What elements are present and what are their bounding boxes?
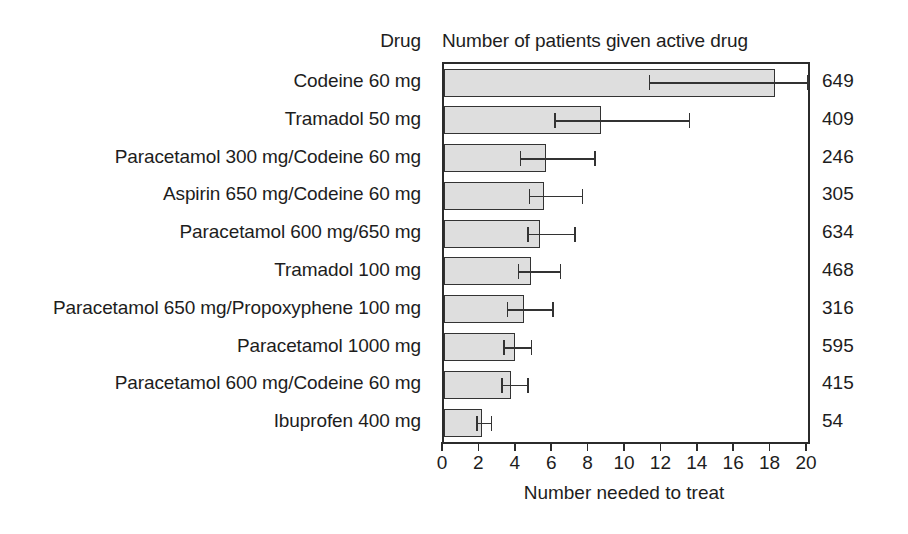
drug-label: Aspirin 650 mg/Codeine 60 mg bbox=[0, 175, 430, 213]
patients-column-header: Number of patients given active drug bbox=[442, 30, 748, 52]
error-bar-cap-low bbox=[554, 113, 556, 128]
x-axis-tick bbox=[587, 442, 589, 451]
patient-count: 595 bbox=[822, 327, 902, 365]
error-bar-cap-high bbox=[594, 151, 596, 166]
bar-row bbox=[444, 64, 808, 102]
drug-label: Paracetamol 300 mg/Codeine 60 mg bbox=[0, 138, 430, 176]
patient-count: 305 bbox=[822, 175, 902, 213]
drug-label: Tramadol 50 mg bbox=[0, 100, 430, 138]
drug-label: Paracetamol 600 mg/Codeine 60 mg bbox=[0, 364, 430, 402]
bar-row bbox=[444, 215, 808, 253]
error-bar-line bbox=[508, 309, 554, 311]
error-bar-line bbox=[650, 82, 808, 84]
error-bar-line bbox=[502, 385, 527, 387]
error-bar-cap-high bbox=[582, 189, 584, 204]
error-bar-cap-high bbox=[552, 302, 554, 317]
x-axis-tick-label: 10 bbox=[613, 452, 634, 474]
x-axis-tick bbox=[805, 442, 807, 451]
x-axis-tick bbox=[732, 442, 734, 451]
error-bar-cap-high bbox=[807, 75, 809, 90]
patient-count: 316 bbox=[822, 289, 902, 327]
error-bar-line bbox=[477, 423, 492, 425]
error-bar-cap-low bbox=[501, 378, 503, 393]
x-axis-tick bbox=[550, 442, 552, 451]
x-axis-tick bbox=[660, 442, 662, 451]
error-bar-cap-low bbox=[529, 189, 531, 204]
error-bar-cap-high bbox=[491, 416, 493, 431]
drug-label: Codeine 60 mg bbox=[0, 62, 430, 100]
bar-row bbox=[444, 329, 808, 367]
patient-count: 409 bbox=[822, 100, 902, 138]
patient-count-column: 64940924630563446831659541554 bbox=[822, 62, 902, 440]
x-axis-title: Number needed to treat bbox=[442, 482, 806, 504]
x-axis-tick-label: 12 bbox=[650, 452, 671, 474]
x-axis-tick-label: 20 bbox=[795, 452, 816, 474]
patient-count: 415 bbox=[822, 364, 902, 402]
patient-count: 468 bbox=[822, 251, 902, 289]
error-bar-cap-low bbox=[527, 227, 529, 242]
error-bar-cap-low bbox=[507, 302, 509, 317]
drug-label-column: Codeine 60 mgTramadol 50 mgParacetamol 3… bbox=[0, 62, 430, 440]
error-bar-cap-high bbox=[560, 264, 562, 279]
error-bar-cap-low bbox=[520, 151, 522, 166]
bar-row bbox=[444, 291, 808, 329]
x-axis-tick bbox=[769, 442, 771, 451]
error-bar-line bbox=[504, 347, 531, 349]
x-axis-tick-label: 6 bbox=[546, 452, 557, 474]
error-bar-cap-high bbox=[689, 113, 691, 128]
drug-label: Paracetamol 600 mg/650 mg bbox=[0, 213, 430, 251]
error-bar-cap-low bbox=[518, 264, 520, 279]
x-axis-tick bbox=[514, 442, 516, 451]
bar-row bbox=[444, 366, 808, 404]
drug-label: Ibuprofen 400 mg bbox=[0, 402, 430, 440]
error-bar-line bbox=[519, 271, 561, 273]
bar-row bbox=[444, 140, 808, 178]
x-axis-tick-label: 16 bbox=[723, 452, 744, 474]
bar-row bbox=[444, 253, 808, 291]
patient-count: 246 bbox=[822, 138, 902, 176]
error-bar-line bbox=[555, 120, 690, 122]
bar-row bbox=[444, 177, 808, 215]
error-bar-line bbox=[528, 234, 575, 236]
x-axis-tick-label: 2 bbox=[473, 452, 484, 474]
patient-count: 649 bbox=[822, 62, 902, 100]
x-axis-tick bbox=[478, 442, 480, 451]
error-bar-line bbox=[520, 158, 595, 160]
drug-label: Tramadol 100 mg bbox=[0, 251, 430, 289]
x-axis-tick-label: 8 bbox=[582, 452, 593, 474]
drug-column-header: Drug bbox=[0, 30, 430, 52]
drug-label: Paracetamol 650 mg/Propoxyphene 100 mg bbox=[0, 289, 430, 327]
x-axis-tick bbox=[696, 442, 698, 451]
x-axis-tick bbox=[441, 442, 443, 451]
x-axis-tick-label: 18 bbox=[759, 452, 780, 474]
patient-count: 54 bbox=[822, 402, 902, 440]
drug-label: Paracetamol 1000 mg bbox=[0, 327, 430, 365]
error-bar-cap-low bbox=[476, 416, 478, 431]
x-axis-tick-label: 14 bbox=[686, 452, 707, 474]
x-axis-tick bbox=[623, 442, 625, 451]
error-bar-cap-low bbox=[649, 75, 651, 90]
plot-area bbox=[442, 62, 810, 444]
error-bar-line bbox=[530, 196, 583, 198]
x-axis-tick-label: 4 bbox=[510, 452, 521, 474]
nnt-bar-chart-figure: Drug Number of patients given active dru… bbox=[0, 0, 908, 534]
error-bar-cap-high bbox=[574, 227, 576, 242]
error-bar-cap-low bbox=[503, 340, 505, 355]
bar-row bbox=[444, 102, 808, 140]
x-axis-tick-label: 0 bbox=[437, 452, 448, 474]
error-bar-cap-high bbox=[531, 340, 533, 355]
bar-row bbox=[444, 404, 808, 442]
error-bar-cap-high bbox=[527, 378, 529, 393]
patient-count: 634 bbox=[822, 213, 902, 251]
